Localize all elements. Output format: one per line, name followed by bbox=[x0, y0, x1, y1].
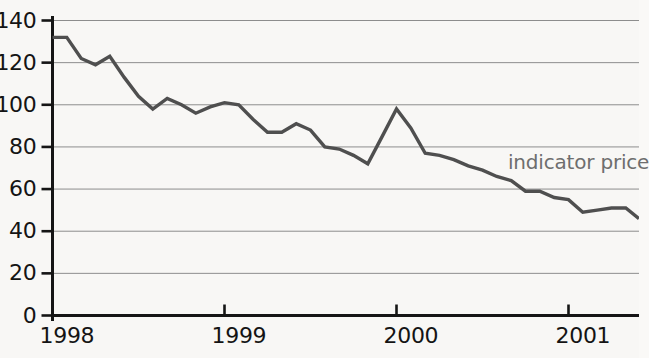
y-axis-tick-label: 80 bbox=[9, 136, 36, 158]
y-axis-ticks-group bbox=[42, 21, 53, 316]
y-axis-tick-label: 60 bbox=[9, 178, 36, 200]
x-axis-tick-label: 1999 bbox=[212, 325, 267, 347]
series-label-indicator-price: indicator price bbox=[508, 152, 649, 172]
y-axis-tick-label: 40 bbox=[9, 220, 36, 242]
x-axis-tick-label: 1998 bbox=[40, 325, 95, 347]
y-axis-tick-label: 20 bbox=[9, 262, 36, 284]
x-axis-tick-label: 2001 bbox=[556, 325, 611, 347]
y-axis-tick-label: 120 bbox=[0, 52, 37, 74]
x-axis-tick-label: 2000 bbox=[384, 325, 439, 347]
gridlines-group bbox=[53, 21, 640, 274]
y-axis-tick-label: 0 bbox=[23, 305, 37, 327]
x-axis-ticks-group bbox=[53, 305, 569, 316]
y-axis-tick-label: 100 bbox=[0, 94, 37, 116]
y-axis-tick-label: 140 bbox=[0, 10, 37, 32]
series-line-indicator-price bbox=[53, 37, 640, 218]
